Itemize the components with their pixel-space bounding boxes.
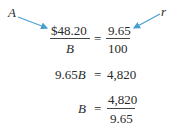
label-a: A	[8, 6, 16, 19]
annotation-arrows	[0, 0, 176, 138]
label-r: r	[161, 5, 166, 18]
eq1-fraction-bar-left	[50, 38, 90, 39]
eq2-left-coef: 9.65	[55, 67, 78, 82]
eq3-fraction-bar	[107, 108, 135, 109]
eq3-denominator: 9.65	[110, 112, 133, 125]
eq2-equals: =	[94, 68, 101, 81]
arrow-r-to-rate	[134, 14, 160, 28]
eq1-numerator-left: $48.20	[51, 24, 87, 37]
eq3-equals: =	[94, 102, 101, 115]
eq1-numerator-right: 9.65	[108, 24, 131, 37]
eq3-left: B	[78, 102, 86, 115]
eq1-denominator-right: 100	[108, 42, 128, 55]
eq1-fraction-bar-right	[106, 38, 130, 39]
eq3-numerator: 4,820	[108, 93, 137, 106]
eq2-right: 4,820	[107, 68, 136, 81]
arrow-a-to-numerator	[18, 17, 47, 28]
eq1-equals: =	[94, 32, 101, 45]
eq2-left: 9.65B	[55, 68, 86, 81]
eq1-denominator-left: B	[66, 42, 74, 55]
eq2-left-var: B	[78, 67, 86, 82]
